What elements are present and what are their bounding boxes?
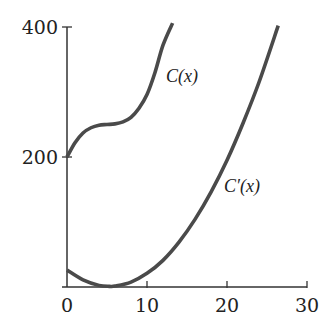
curves bbox=[67, 23, 278, 286]
x-tick-label: 0 bbox=[61, 294, 73, 316]
curve-label-c: C(x) bbox=[166, 66, 198, 87]
curve-c bbox=[67, 23, 173, 157]
curve-c-prime bbox=[67, 26, 278, 287]
curve-label-c-prime: C′(x) bbox=[224, 176, 260, 197]
y-tick-label: 200 bbox=[22, 146, 58, 168]
x-tick-label: 20 bbox=[215, 294, 239, 316]
x-tick-label: 10 bbox=[135, 294, 159, 316]
chart: 0102030200400 C(x) C′(x) bbox=[0, 0, 326, 320]
y-tick-label: 400 bbox=[22, 16, 58, 38]
x-tick-label: 30 bbox=[295, 294, 319, 316]
